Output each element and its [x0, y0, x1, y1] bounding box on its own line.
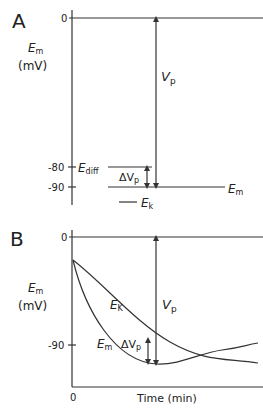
panel-b-x-label: Time (min): [136, 392, 197, 405]
panel-a: A Em (mV) 0 -80 -90 Ediff Em Ek Vp ΔVp: [12, 9, 263, 211]
panel-a-y-unit: (mV): [18, 59, 47, 73]
panel-b-ek-label: EK: [110, 298, 124, 313]
panel-b-y-axis-label: Em (mV): [18, 281, 47, 313]
panel-b-vp-label: Vp: [162, 297, 177, 314]
panel-b-dvp-label: ΔVp: [121, 338, 141, 352]
panel-a-ediff-label: Ediff: [78, 161, 99, 176]
panel-a-em-label: Em: [228, 182, 244, 197]
panel-a-tick-minus80: -80: [48, 162, 64, 173]
panel-b-em-label: Em: [97, 337, 113, 352]
panel-a-letter: A: [12, 9, 26, 33]
panel-b-x-origin: 0: [70, 392, 76, 403]
diagram: A Em (mV) 0 -80 -90 Ediff Em Ek Vp ΔVp B: [0, 0, 263, 409]
panel-a-tick-0: 0: [61, 13, 67, 24]
svg-text:Em: Em: [28, 281, 44, 296]
svg-text:Em: Em: [28, 41, 44, 56]
panel-b-tick-0: 0: [61, 232, 67, 243]
panel-a-dvp-label: ΔVp: [119, 171, 139, 185]
panel-b-letter: B: [10, 227, 24, 251]
panel-a-tick-minus90: -90: [48, 182, 64, 193]
panel-a-vp-label: Vp: [161, 69, 176, 86]
panel-b: B Em (mV) 0 -90 0 Time (min) EK Em Vp ΔV…: [10, 227, 263, 405]
panel-a-y-axis-label: Em (mV): [18, 41, 47, 73]
panel-b-y-unit: (mV): [18, 299, 47, 313]
panel-a-ek-label: Ek: [141, 196, 154, 211]
panel-b-tick-minus90: -90: [48, 340, 64, 351]
